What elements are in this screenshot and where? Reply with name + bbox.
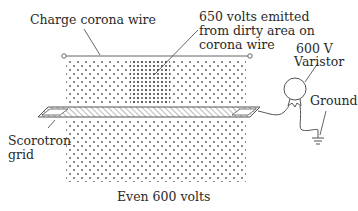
scorotron-grid bbox=[38, 107, 260, 117]
dirty-area-charge bbox=[130, 59, 170, 105]
label-dirty-area-line1: 650 volts emitted bbox=[199, 10, 310, 24]
label-grid: grid bbox=[8, 148, 34, 162]
label-scorotron: Scorotron bbox=[8, 134, 71, 148]
lower-charge-field bbox=[66, 120, 246, 182]
label-charge-corona-wire: Charge corona wire bbox=[30, 13, 156, 27]
label-dirty-area-line2: from dirty area on bbox=[199, 24, 315, 38]
label-varistor: Varistor bbox=[294, 55, 344, 69]
varistor-icon bbox=[258, 78, 318, 138]
label-ground: Ground bbox=[310, 94, 358, 108]
label-even-voltage: Even 600 volts bbox=[117, 190, 210, 204]
ground-icon bbox=[312, 138, 324, 144]
corona-wire bbox=[62, 54, 252, 58]
label-dirty-area-line3: corona wire bbox=[199, 38, 275, 52]
